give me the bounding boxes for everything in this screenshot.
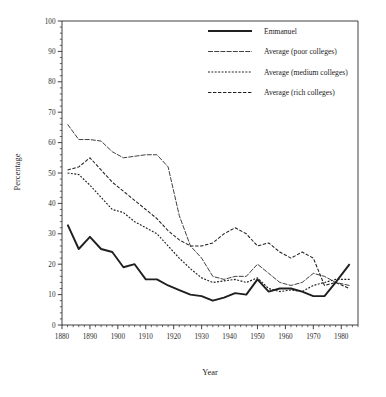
- x-tick-label: 1970: [306, 333, 321, 341]
- y-tick-label: 20: [48, 261, 56, 269]
- x-tick-label: 1960: [278, 333, 293, 341]
- x-tick-label: 1980: [334, 333, 349, 341]
- x-tick-label: 1890: [83, 333, 98, 341]
- y-tick-label: 70: [48, 109, 56, 117]
- legend-label: Average (poor colleges): [264, 47, 337, 56]
- line-chart: 0102030405060708090100 18801890190019101…: [0, 0, 386, 397]
- y-tick-label: 50: [48, 170, 56, 178]
- data-series-group: [68, 124, 350, 300]
- x-tick-label: 1910: [139, 333, 154, 341]
- y-tick-label: 60: [48, 139, 56, 147]
- x-axis-title: Year: [202, 368, 218, 377]
- x-tick-label: 1920: [167, 333, 182, 341]
- chart-legend: EmmanuelAverage (poor colleges)Average (…: [208, 27, 348, 98]
- x-tick-label: 1880: [55, 333, 70, 341]
- x-tick-label: 1930: [194, 333, 209, 341]
- x-tick-label: 1900: [111, 333, 126, 341]
- y-tick-label: 40: [48, 200, 56, 208]
- series-line: [68, 173, 350, 292]
- legend-label: Average (rich colleges): [264, 88, 335, 97]
- x-axis: 1880189019001910192019301940195019601970…: [55, 325, 358, 341]
- y-tick-label: 100: [45, 18, 56, 26]
- y-tick-label: 10: [48, 291, 56, 299]
- y-axis: 0102030405060708090100: [45, 18, 62, 330]
- chart-figure: 0102030405060708090100 18801890190019101…: [0, 0, 386, 397]
- y-tick-label: 30: [48, 230, 56, 238]
- x-tick-label: 1940: [222, 333, 237, 341]
- series-line: [68, 124, 350, 285]
- y-tick-label: 90: [48, 48, 56, 56]
- y-axis-title: Percentage: [13, 153, 22, 190]
- y-tick-label: 80: [48, 78, 56, 86]
- legend-label: Emmanuel: [264, 27, 297, 36]
- legend-label: Average (medium colleges): [264, 68, 348, 77]
- plot-frame: [62, 21, 358, 325]
- x-tick-label: 1950: [250, 333, 265, 341]
- y-tick-label: 0: [52, 322, 56, 330]
